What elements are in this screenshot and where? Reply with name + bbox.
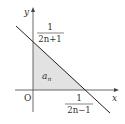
region-label-subscript: n (47, 75, 51, 82)
y-axis-label: y (23, 7, 30, 17)
x-axis-arrow-icon (114, 88, 119, 92)
x-axis-label: x (112, 93, 117, 103)
y-axis-arrow-icon (31, 7, 35, 12)
x-intercept-denominator: 2n−1 (67, 105, 90, 115)
y-intercept-numerator: 1 (47, 22, 53, 32)
y-intercept-denominator: 2n+1 (38, 34, 61, 44)
diagram-canvas: y x O 1 2n+1 an 1 2n−1 (0, 0, 125, 124)
origin-label: O (24, 93, 31, 103)
x-intercept-numerator: 1 (76, 93, 82, 103)
